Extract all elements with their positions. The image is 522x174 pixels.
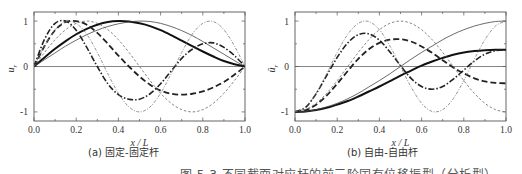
x-tick-label: 0.2	[331, 125, 343, 135]
figure-caption-clipped: 图 5.3 不同截面对应杆的前三阶固有位移振型（分析型）	[0, 163, 522, 174]
series-mode3-nonuniform	[34, 20, 245, 99]
x-tick-label: 0.2	[70, 125, 82, 135]
subcaption-b: (b) 自由-自由杆	[347, 144, 418, 159]
x-tick-label: 0.6	[416, 125, 428, 135]
y-tick-label: 0	[284, 62, 289, 72]
x-tick-label: 1.0	[500, 125, 512, 135]
y-axis-label: ur	[5, 65, 19, 73]
series-mode3-nonuniform	[295, 33, 506, 112]
x-tick-label: 0.0	[28, 125, 40, 135]
y-tick-label: -1	[20, 107, 28, 117]
x-tick-label: 0.8	[197, 125, 209, 135]
x-tick-label: 0.4	[112, 125, 124, 135]
x-tick-label: 0.4	[373, 125, 385, 135]
y-axis-label: ûr	[266, 65, 280, 73]
series-mode2-nonuniform	[34, 21, 245, 95]
chart-free-free-plot: 0.00.20.40.60.81.010-1x / Lûr	[261, 0, 522, 160]
x-tick-label: 1.0	[239, 125, 251, 135]
y-tick-label: 0	[23, 62, 28, 72]
series-mode1-uniform	[34, 21, 245, 66]
figure-caption: 图 5.3 不同截面对应杆的前三阶固有位移振型（分析型）	[180, 165, 497, 174]
series-mode1-nonuniform	[295, 50, 506, 112]
chart-panel-fixed-fixed: 0.00.20.40.60.81.010-1x / Lur (a) 固定-固定杆	[0, 0, 261, 160]
chart-fixed-fixed-plot: 0.00.20.40.60.81.010-1x / Lur	[0, 0, 261, 160]
x-tick-label: 0.8	[458, 125, 470, 135]
series-mode1-nonuniform	[34, 21, 245, 66]
x-tick-label: 0.0	[289, 125, 301, 135]
y-tick-label: -1	[281, 107, 289, 117]
y-tick-label: 1	[23, 17, 28, 27]
subcaption-a: (a) 固定-固定杆	[88, 144, 159, 159]
chart-panel-free-free: 0.00.20.40.60.81.010-1x / Lûr (b) 自由-自由杆	[261, 0, 522, 160]
y-tick-label: 1	[284, 17, 289, 27]
x-tick-label: 0.6	[155, 125, 167, 135]
